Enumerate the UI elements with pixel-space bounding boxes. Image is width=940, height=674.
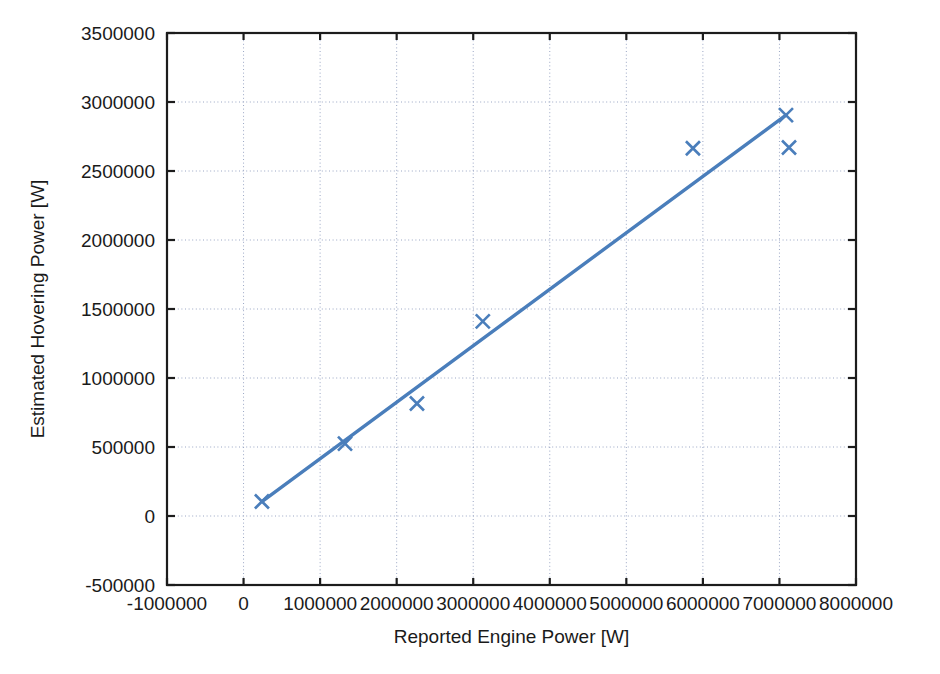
x-tick-label: 0: [238, 593, 249, 614]
data-point-marker: [476, 314, 490, 328]
y-tick-label: 1500000: [81, 299, 155, 320]
y-tick-labels: -500000050000010000001500000200000025000…: [81, 23, 155, 596]
y-axis-title: Estimated Hovering Power [W]: [27, 180, 48, 439]
x-tick-label: 6000000: [666, 593, 740, 614]
x-tick-labels: -100000001000000200000030000004000000500…: [127, 593, 893, 614]
data-series-group: [255, 108, 796, 508]
y-tick-label: 500000: [92, 437, 155, 458]
x-tick-label: 7000000: [742, 593, 816, 614]
data-point-marker: [782, 141, 796, 155]
x-tick-label: 2000000: [360, 593, 434, 614]
data-point-marker: [686, 141, 700, 155]
y-tick-label: 2500000: [81, 161, 155, 182]
y-tick-label: 1000000: [81, 368, 155, 389]
y-tick-label: 3500000: [81, 23, 155, 44]
x-tick-label: 3000000: [436, 593, 510, 614]
chart-container: -500000050000010000001500000200000025000…: [0, 0, 940, 674]
x-tick-label: -1000000: [127, 593, 207, 614]
trend-line: [262, 115, 786, 501]
x-tick-label: 5000000: [589, 593, 663, 614]
y-tick-label: 3000000: [81, 92, 155, 113]
data-point-marker: [410, 397, 424, 411]
y-tick-label: 0: [144, 506, 155, 527]
y-tick-label: 2000000: [81, 230, 155, 251]
plot-frame: [167, 33, 856, 585]
x-tick-label: 4000000: [513, 593, 587, 614]
gridlines-group: [167, 33, 856, 585]
scatter-plot: -500000050000010000001500000200000025000…: [0, 0, 940, 674]
x-tick-label: 1000000: [283, 593, 357, 614]
x-tick-label: 8000000: [819, 593, 893, 614]
tickmarks-group: [167, 33, 856, 585]
x-axis-title: Reported Engine Power [W]: [394, 626, 630, 647]
